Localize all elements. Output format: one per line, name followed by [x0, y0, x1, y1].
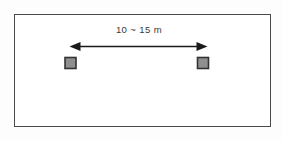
- arrow-head-left-icon: [70, 42, 81, 51]
- arrow-head-right-icon: [197, 42, 208, 51]
- diagram-canvas: 10 ~ 15 m: [0, 0, 283, 141]
- dimension-arrow: [70, 42, 208, 51]
- left-square-marker: [65, 58, 76, 69]
- diagram-vector-layer: [0, 0, 283, 141]
- right-square-marker: [198, 58, 209, 69]
